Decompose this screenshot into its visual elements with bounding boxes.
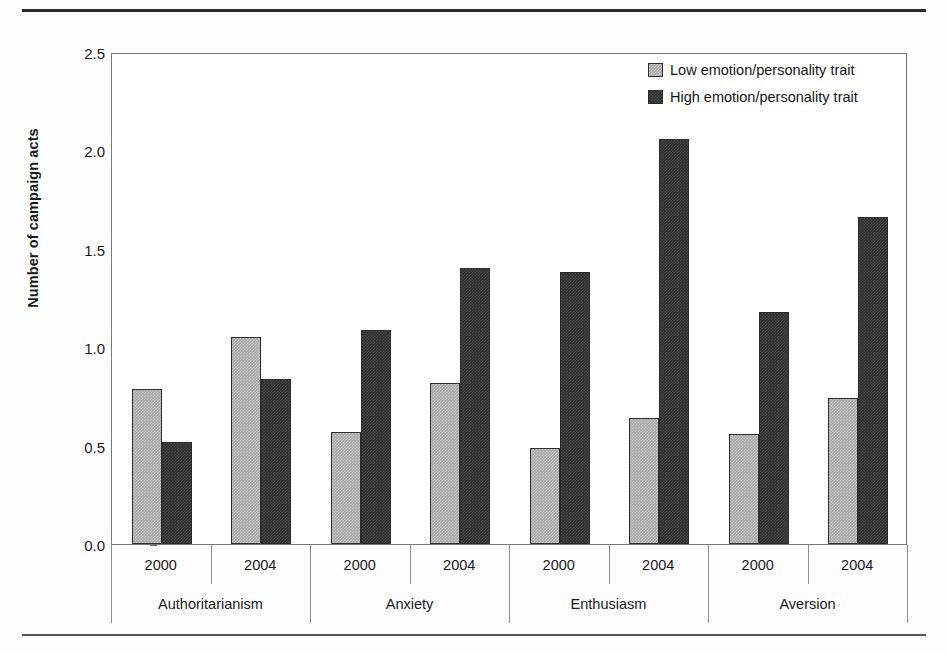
bar-high xyxy=(162,442,192,544)
x-axis-year-tier: 20002004200020042000200420002004 xyxy=(111,545,907,584)
figure-page: Number of campaign acts 0.00.51.01.52.02… xyxy=(0,0,948,654)
bar-low xyxy=(231,337,261,544)
x-axis-year-label: 2000 xyxy=(509,545,609,584)
x-axis-group-label: Enthusiasm xyxy=(509,584,708,623)
bar-low xyxy=(430,383,460,544)
y-axis-tick-label: 2.0 xyxy=(53,143,105,160)
x-axis-separator xyxy=(907,584,908,623)
legend-item: Low emotion/personality trait xyxy=(648,56,898,83)
legend-label: Low emotion/personality trait xyxy=(670,62,855,78)
bar-low xyxy=(331,432,361,544)
bar-low xyxy=(828,398,858,544)
bar-high xyxy=(858,217,888,544)
x-axis-separator xyxy=(111,545,112,584)
x-axis-year-label: 2000 xyxy=(111,545,211,584)
bar-low xyxy=(530,448,560,544)
x-axis-group-label: Anxiety xyxy=(310,584,509,623)
plot-area: Low emotion/personality traitHigh emotio… xyxy=(111,53,907,545)
x-axis-year-label: 2004 xyxy=(609,545,709,584)
y-axis-tick-label: 0.0 xyxy=(53,537,105,554)
bar-low xyxy=(132,389,162,544)
x-axis-separator xyxy=(708,545,709,584)
x-axis-year-label: 2004 xyxy=(808,545,908,584)
x-axis-separator xyxy=(907,545,908,584)
bar-low xyxy=(729,434,759,544)
x-axis-separator xyxy=(211,545,212,584)
x-axis-year-label: 2000 xyxy=(708,545,808,584)
bar-high xyxy=(659,139,689,544)
y-axis-tick-label: 1.5 xyxy=(53,241,105,258)
bar-high xyxy=(560,272,590,544)
x-axis-separator xyxy=(509,545,510,584)
x-axis-separator xyxy=(111,584,112,623)
legend-item: High emotion/personality trait xyxy=(648,83,898,110)
bar-low xyxy=(629,418,659,544)
y-axis-tick-labels: 0.00.51.01.52.02.5 xyxy=(45,53,105,545)
bars-layer xyxy=(112,54,906,544)
y-axis-tick-label: 2.5 xyxy=(53,45,105,62)
x-axis-separator xyxy=(410,545,411,584)
bar-high xyxy=(759,312,789,544)
y-axis-tick-label: 0.5 xyxy=(53,438,105,455)
legend: Low emotion/personality traitHigh emotio… xyxy=(648,56,898,110)
x-axis: 20002004200020042000200420002004 Authori… xyxy=(111,545,907,623)
x-axis-separator xyxy=(609,545,610,584)
top-divider-rule xyxy=(22,9,926,12)
bar-high xyxy=(460,268,490,544)
bottom-divider-rule xyxy=(22,634,926,636)
legend-swatch-low-icon xyxy=(648,63,663,77)
x-axis-separator xyxy=(310,545,311,584)
y-axis-title: Number of campaign acts xyxy=(25,108,41,328)
x-axis-group-tier: AuthoritarianismAnxietyEnthusiasmAversio… xyxy=(111,584,907,623)
legend-swatch-high-icon xyxy=(648,90,663,104)
x-axis-group-label: Authoritarianism xyxy=(111,584,310,623)
x-axis-separator xyxy=(708,584,709,623)
bar-high xyxy=(261,379,291,544)
x-axis-separator xyxy=(808,545,809,584)
x-axis-group-label: Aversion xyxy=(708,584,907,623)
x-axis-year-label: 2000 xyxy=(310,545,410,584)
x-axis-year-label: 2004 xyxy=(410,545,510,584)
x-axis-separator xyxy=(310,584,311,623)
bar-high xyxy=(361,330,391,545)
legend-label: High emotion/personality trait xyxy=(670,89,858,105)
y-axis-tick-label: 1.0 xyxy=(53,340,105,357)
x-axis-separator xyxy=(509,584,510,623)
x-axis-year-label: 2004 xyxy=(211,545,311,584)
